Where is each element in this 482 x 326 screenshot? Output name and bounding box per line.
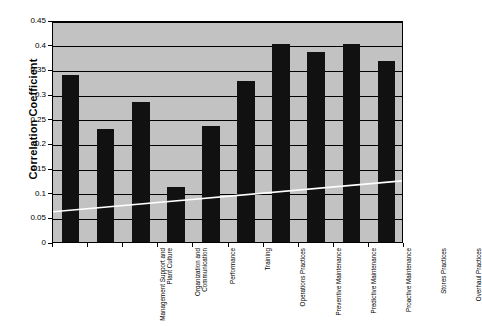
x-axis-tick-label: Performance <box>229 248 236 326</box>
x-axis-tick-mark <box>333 243 334 247</box>
x-axis-tick-mark <box>122 243 123 247</box>
x-axis-tick-label: Operations Practices <box>299 248 306 326</box>
x-axis-tick-mark <box>263 243 264 247</box>
y-axis-tick-label: 0.4 <box>12 42 46 50</box>
x-axis-tick-mark <box>157 243 158 247</box>
x-axis-tick-label: Overhaul Practices <box>475 248 482 326</box>
x-axis-tick-mark <box>403 243 404 247</box>
x-axis-tick-label: Management Support and Plant Culture <box>159 248 173 326</box>
x-axis-tick-label: Preventive Maintenance <box>335 248 342 326</box>
x-axis-tick-mark <box>368 243 369 247</box>
x-axis-tick-label: Organization and Communication <box>194 248 208 326</box>
plot-area <box>52 21 403 243</box>
x-axis-tick-mark <box>228 243 229 247</box>
trend-line-segment <box>53 181 402 212</box>
x-axis-tick-label: Training <box>264 248 271 326</box>
y-axis-tick-label: 0.3 <box>12 91 46 99</box>
y-axis-tick-label: 0.45 <box>12 17 46 25</box>
x-axis-tick-mark <box>298 243 299 247</box>
y-axis-tick-label: 0.15 <box>12 165 46 173</box>
x-axis-tick-mark <box>52 243 53 247</box>
y-axis-tick-label: 0.1 <box>12 190 46 198</box>
y-axis-tick-label: 0.2 <box>12 140 46 148</box>
x-axis-tick-mark <box>192 243 193 247</box>
trend-line <box>53 22 402 242</box>
y-axis-tick-label: 0.25 <box>12 116 46 124</box>
x-axis-tick-label: Predictive Maintenance <box>370 248 377 326</box>
y-axis-tick-label: 0.35 <box>12 66 46 74</box>
y-axis-tick-label: 0.05 <box>12 214 46 222</box>
x-axis-tick-label: Stores Practices <box>440 248 447 326</box>
x-axis-tick-label: Proactive Maintenance <box>405 248 412 326</box>
y-axis-tick-label: 0 <box>12 239 46 247</box>
x-axis-tick-mark <box>87 243 88 247</box>
